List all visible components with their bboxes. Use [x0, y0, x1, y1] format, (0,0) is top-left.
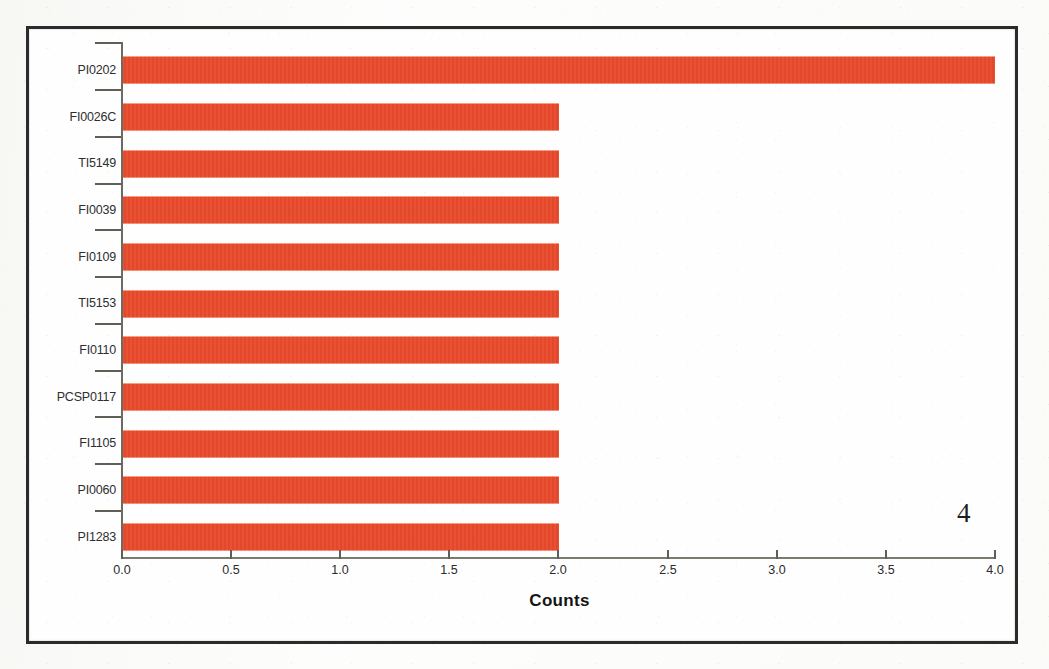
x-axis-tick-1	[230, 550, 232, 559]
bar-FI0109	[122, 243, 559, 271]
y-axis-tick-2	[95, 136, 122, 138]
x-axis-tick-2	[339, 550, 341, 559]
bar-FI0026C	[122, 103, 559, 131]
y-axis-tick-3	[95, 183, 122, 185]
y-axis-label-8: FI1105	[24, 436, 116, 450]
y-axis-tick-5	[95, 276, 122, 278]
y-axis-tick-6	[95, 323, 122, 325]
x-axis-tick-label-0: 0.0	[92, 563, 152, 577]
y-axis-tick-7	[95, 370, 122, 372]
value-annotation-4: 4	[957, 498, 971, 529]
x-axis-tick-label-1: 0.5	[201, 563, 261, 577]
x-axis-tick-4	[557, 550, 559, 559]
x-axis-tick-label-3: 1.5	[419, 563, 479, 577]
x-axis-tick-label-6: 3.0	[747, 563, 807, 577]
y-axis-label-1: FI0026C	[24, 110, 116, 124]
x-axis-tick-0	[121, 550, 123, 559]
x-axis-title: Counts	[122, 591, 997, 611]
y-axis-label-5: TI5153	[24, 296, 116, 310]
y-axis-label-9: PI0060	[24, 483, 116, 497]
y-axis-tick-1	[95, 89, 122, 91]
bar-PCSP0117	[122, 383, 559, 411]
bar-FI1105	[122, 430, 559, 458]
y-axis-label-7: PCSP0117	[24, 390, 116, 404]
y-axis-label-4: FI0109	[24, 250, 116, 264]
x-axis-tick-label-7: 3.5	[856, 563, 916, 577]
x-axis-tick-8	[994, 550, 996, 559]
y-axis-tick-8	[95, 416, 122, 418]
x-axis-tick-label-8: 4.0	[965, 563, 1025, 577]
y-axis-line	[121, 42, 123, 558]
x-axis-tick-6	[776, 550, 778, 559]
bar-TI5153	[122, 290, 559, 318]
bar-PI0060	[122, 476, 559, 504]
x-axis-tick-5	[667, 550, 669, 559]
x-axis-tick-label-2: 1.0	[310, 563, 370, 577]
y-axis-label-10: PI1283	[24, 530, 116, 544]
bar-TI5149	[122, 150, 559, 178]
y-axis-tick-9	[95, 463, 122, 465]
plot-area	[122, 42, 995, 557]
y-axis-label-6: FI0110	[24, 343, 116, 357]
bar-FI0039	[122, 196, 559, 224]
y-axis-tick-0	[95, 42, 122, 44]
y-axis-tick-10	[95, 510, 122, 512]
y-axis-label-0: PI0202	[24, 63, 116, 77]
x-axis-tick-label-4: 2.0	[528, 563, 588, 577]
bar-FI0110	[122, 336, 559, 364]
bar-PI1283	[122, 523, 559, 551]
bar-PI0202	[122, 56, 995, 84]
x-axis-tick-7	[885, 550, 887, 559]
y-axis-label-3: FI0039	[24, 203, 116, 217]
y-axis-tick-4	[95, 229, 122, 231]
x-axis-tick-label-5: 2.5	[638, 563, 698, 577]
figure-canvas: PI0202 FI0026C TI5149 FI0039 FI0109 TI51…	[0, 0, 1049, 669]
y-axis-label-2: TI5149	[24, 156, 116, 170]
x-axis-tick-3	[448, 550, 450, 559]
